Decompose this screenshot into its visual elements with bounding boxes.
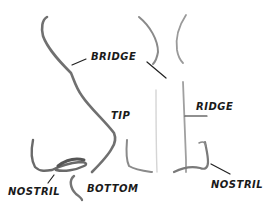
label-nostril-right: NOSTRIL	[211, 180, 263, 190]
label-nostril-left: NOSTRIL	[8, 187, 60, 197]
front-view	[126, 15, 208, 172]
label-bottom: BOTTOM	[87, 184, 138, 194]
nostril-left-leader	[48, 175, 54, 183]
profile-outline	[42, 17, 115, 172]
right-brow-curve	[177, 15, 186, 63]
bridge-leader-left	[72, 59, 86, 65]
nostril-right-leader	[211, 164, 230, 174]
nose-diagram: BRIDGE RIDGE TIP NOSTRIL BOTTOM NOSTRIL	[0, 0, 269, 205]
left-brow-curve	[139, 17, 158, 64]
label-bridge: BRIDGE	[91, 52, 136, 62]
leader-lines	[48, 59, 230, 183]
ridge-line	[183, 82, 186, 172]
label-tip: TIP	[111, 111, 130, 121]
left-side-line	[156, 90, 157, 172]
bridge-leader-right	[147, 62, 166, 78]
front-right-nostril	[174, 142, 208, 172]
side-profile-view	[32, 17, 116, 200]
bottom-curve	[71, 176, 82, 200]
front-left-nostril	[126, 140, 152, 172]
label-ridge: RIDGE	[196, 102, 233, 112]
